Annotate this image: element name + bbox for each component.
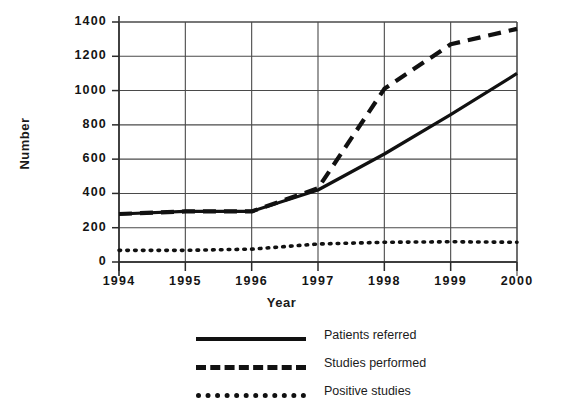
legend-label-studies-performed: Studies performed (324, 356, 426, 370)
dotted-line-key (196, 393, 306, 404)
axis-tick-marks (112, 22, 517, 271)
legend-label-positive-studies: Positive studies (324, 384, 411, 398)
legend-item-positive-studies: Positive studies (196, 382, 496, 410)
solid-line-key (196, 337, 306, 347)
chart-legend: Patients referred Studies performed Posi… (196, 326, 496, 410)
dashed-line-key (196, 365, 306, 376)
line-chart: Number Year 0200400600800100012001400 19… (0, 0, 563, 418)
legend-label-patients-referred: Patients referred (324, 328, 416, 342)
legend-item-studies-performed: Studies performed (196, 354, 496, 382)
gridlines (119, 22, 517, 262)
legend-item-patients-referred: Patients referred (196, 326, 496, 354)
